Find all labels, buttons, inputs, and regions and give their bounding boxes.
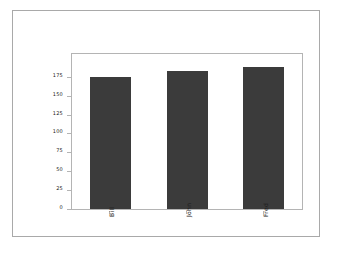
- bar: [167, 71, 208, 209]
- plot-area: [71, 53, 303, 210]
- y-tick-label: 50: [56, 167, 63, 172]
- y-tick-label: 0: [60, 205, 63, 210]
- y-tick-label: 125: [53, 111, 63, 116]
- y-axis: 0255075100125150175: [13, 53, 71, 210]
- x-axis: BillJohnFred: [71, 211, 303, 254]
- chart-screenshot: 0255075100125150175 BillJohnFred: [0, 0, 343, 254]
- y-tick-label: 75: [56, 148, 63, 153]
- y-tick-label: 25: [56, 186, 63, 191]
- x-tick-label: Fred: [263, 203, 269, 217]
- bars-container: [72, 54, 302, 209]
- y-tick-label: 175: [53, 73, 63, 78]
- x-tick-label: John: [186, 203, 192, 217]
- y-tick-label: 150: [53, 92, 63, 97]
- figure-border: 0255075100125150175 BillJohnFred: [12, 10, 320, 237]
- bar: [90, 77, 131, 209]
- x-tick-label: Bill: [109, 207, 115, 217]
- y-tick-label: 100: [53, 129, 63, 134]
- bar: [243, 67, 284, 209]
